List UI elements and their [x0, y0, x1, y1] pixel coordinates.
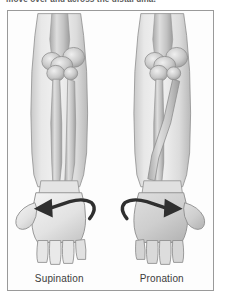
panel-pronation: Pronation — [111, 11, 214, 290]
caption-text: move over and across the distal ulna. — [6, 0, 156, 4]
supination-label: Supination — [8, 273, 111, 284]
caption-clip: move over and across the distal ulna. — [0, 0, 226, 8]
ulna-bone — [51, 79, 62, 182]
radial-head — [166, 67, 180, 80]
figure-page: move over and across the distal ulna. — [0, 0, 226, 301]
ring-finger — [62, 241, 74, 264]
index-finger — [172, 241, 183, 263]
index-finger — [37, 241, 48, 263]
little-finger — [135, 240, 145, 260]
middle-finger — [49, 241, 61, 265]
panel-supination: Supination — [8, 11, 111, 290]
pronation-label: Pronation — [111, 273, 214, 284]
olecranon — [47, 65, 65, 81]
olecranon — [149, 65, 167, 81]
panel-row: Supination — [8, 11, 213, 290]
pronation-illustration — [111, 13, 214, 265]
ring-finger — [146, 241, 158, 264]
radial-head — [64, 67, 78, 80]
middle-finger — [159, 241, 171, 265]
supination-illustration — [8, 13, 111, 265]
little-finger — [76, 240, 86, 260]
figure-box: Supination — [7, 10, 214, 291]
